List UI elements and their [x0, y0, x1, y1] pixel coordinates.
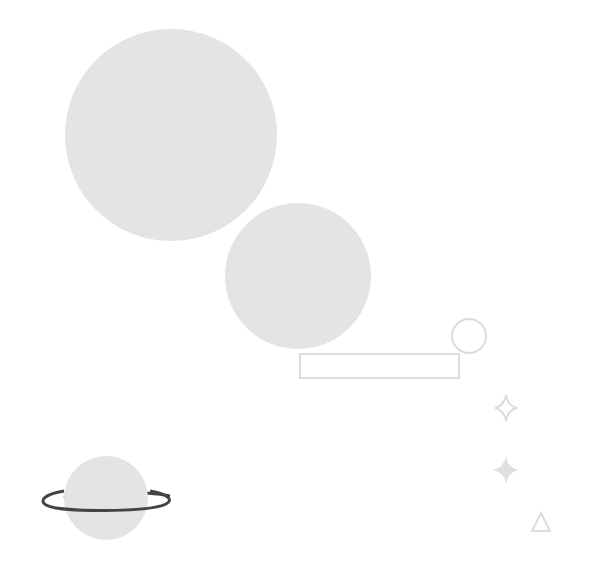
large-planet: [65, 29, 277, 241]
saturn: [43, 456, 170, 540]
saturn-body: [64, 456, 148, 540]
triangle-outline-icon: [532, 513, 550, 531]
small-moon-outline: [452, 319, 486, 353]
space-illustration: [0, 0, 594, 573]
bar-outline: [300, 354, 459, 378]
sparkle-filled-icon: [493, 456, 519, 484]
sparkle-outline-icon: [495, 395, 517, 421]
medium-planet: [225, 203, 371, 349]
